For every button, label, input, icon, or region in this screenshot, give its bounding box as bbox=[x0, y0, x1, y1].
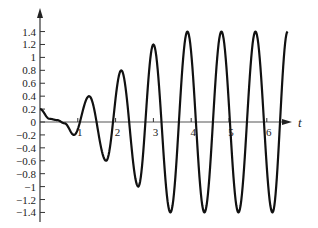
y-tick-label: −0.2 bbox=[16, 129, 36, 141]
x-tick-label: 2 bbox=[115, 126, 121, 138]
x-axis-label: t bbox=[298, 115, 302, 130]
y-axis-arrow-icon bbox=[37, 8, 43, 18]
y-tick-label: 0 bbox=[31, 116, 37, 128]
y-tick-label: −1 bbox=[24, 181, 36, 193]
chart: 1.41.210.80.60.40.20−0.2−0.4−0.6−0.8−1−1… bbox=[0, 0, 318, 228]
y-tick-label: 0.8 bbox=[22, 64, 36, 76]
x-axis-arrow-icon bbox=[282, 119, 292, 125]
y-tick-label: −0.4 bbox=[16, 142, 36, 154]
y-tick-label: 0.2 bbox=[22, 103, 36, 115]
x-tick-label: 3 bbox=[153, 126, 159, 138]
y-tick-label: 1.4 bbox=[22, 26, 36, 38]
y-tick-label: 1.2 bbox=[22, 38, 36, 50]
x-tick-label: 6 bbox=[266, 126, 272, 138]
y-tick-label: −0.8 bbox=[16, 168, 36, 180]
y-tick-label: 1 bbox=[31, 51, 37, 63]
y-tick-label: −0.6 bbox=[16, 155, 36, 167]
y-tick-label: 0.6 bbox=[22, 77, 36, 89]
y-tick-label: 0.4 bbox=[22, 90, 36, 102]
y-tick-label: −1.2 bbox=[16, 194, 36, 206]
y-tick-label: −1.4 bbox=[16, 206, 36, 218]
